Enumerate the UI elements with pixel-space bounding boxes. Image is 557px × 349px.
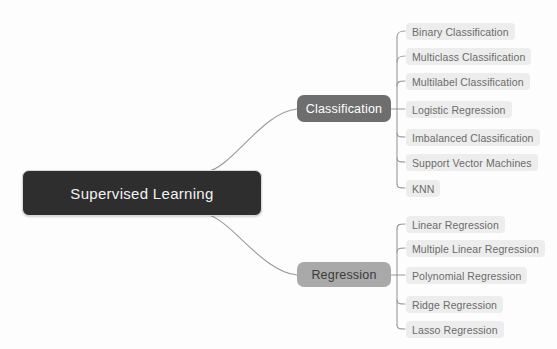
leaf-polynomial-regression[interactable]: Polynomial Regression xyxy=(406,267,527,284)
leaf-imbalanced-classification[interactable]: Imbalanced Classification xyxy=(406,129,540,146)
leaf-lasso-regression[interactable]: Lasso Regression xyxy=(406,321,504,338)
branch-node-regression[interactable]: Regression xyxy=(297,262,391,287)
stub-classification-6 xyxy=(397,158,405,162)
leaf-logistic-regression[interactable]: Logistic Regression xyxy=(406,101,512,118)
stub-classification-2 xyxy=(397,56,405,62)
branch-node-classification[interactable]: Classification xyxy=(297,95,391,122)
stub-regression-1 xyxy=(397,224,405,229)
stub-regression-4 xyxy=(397,300,405,304)
leaf-multiple-linear-regression[interactable]: Multiple Linear Regression xyxy=(406,240,545,257)
root-node-supervised-learning[interactable]: Supervised Learning xyxy=(22,170,262,216)
stub-classification-5 xyxy=(397,133,405,137)
edge-root-to-regression xyxy=(206,214,297,275)
stub-classification-3 xyxy=(397,81,405,86)
stub-classification-1 xyxy=(397,31,405,37)
leaf-knn[interactable]: KNN xyxy=(406,180,440,197)
stub-regression-5 xyxy=(397,325,405,329)
stub-regression-2 xyxy=(397,248,405,252)
leaf-support-vector-machines[interactable]: Support Vector Machines xyxy=(406,154,538,171)
edge-root-to-classification xyxy=(206,109,297,172)
leaf-binary-classification[interactable]: Binary Classification xyxy=(406,23,515,40)
stub-classification-7 xyxy=(397,184,405,188)
leaf-multiclass-classification[interactable]: Multiclass Classification xyxy=(406,48,531,65)
mind-map-canvas: Supervised Learning Classification Regre… xyxy=(0,0,557,349)
leaf-ridge-regression[interactable]: Ridge Regression xyxy=(406,296,503,313)
leaf-multilabel-classification[interactable]: Multilabel Classification xyxy=(406,73,530,90)
leaf-linear-regression[interactable]: Linear Regression xyxy=(406,216,505,233)
